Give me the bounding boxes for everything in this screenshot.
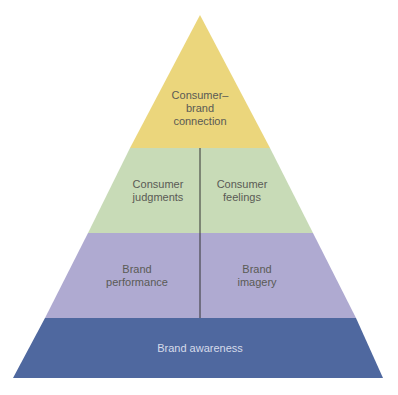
label-consumer-judgments: Consumer judgments	[133, 178, 184, 204]
label-consumer-brand-connection: Consumer– brand connection	[172, 89, 229, 128]
label-brand-awareness: Brand awareness	[157, 342, 243, 355]
label-brand-imagery: Brand imagery	[237, 263, 276, 289]
label-brand-performance: Brand performance	[106, 263, 168, 289]
label-consumer-feelings: Consumer feelings	[217, 178, 268, 204]
level-top-shape	[130, 15, 270, 148]
pyramid-shape	[0, 0, 398, 395]
